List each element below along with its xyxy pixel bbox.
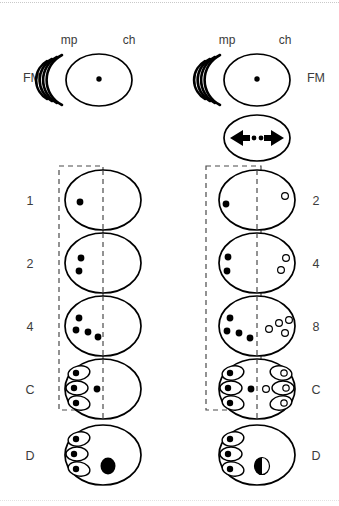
right-row-3-filled-nucleus-2	[224, 328, 231, 335]
right-row-3-open-nucleus-2	[276, 320, 283, 327]
left-row-3-nucleus-4	[95, 334, 102, 341]
right-row-2-label: 4	[313, 257, 320, 271]
lineage-diagram-svg: mp ch FM mp ch FM	[0, 0, 339, 506]
left-row-5: D	[25, 425, 141, 485]
right-row-3-open-nucleus-1	[266, 326, 273, 333]
right-row-2-open-nucleus-2	[278, 267, 285, 274]
right-row-3-open-nucleus-3	[286, 317, 293, 324]
right-row-3-open-nucleus-4	[282, 330, 289, 337]
left-ch-label: ch	[123, 33, 136, 47]
left-row-3-nucleus-2	[73, 327, 80, 334]
right-row-4-pocket-3-nucleus	[227, 400, 233, 406]
left-zygote-nucleus	[96, 76, 101, 81]
right-ch-label: ch	[279, 33, 292, 47]
right-row-3-filled-nucleus-3	[236, 330, 243, 337]
right-row-5-big-nucleus	[255, 458, 270, 475]
right-row-1: 2	[219, 170, 320, 230]
left-row-4-pocket-1-nucleus	[73, 370, 79, 376]
right-row-5-pocket-2-nucleus	[225, 451, 231, 457]
right-row-3-filled-nucleus-4	[247, 335, 254, 342]
right-row-4-open-pocket-1-nucleus	[281, 370, 287, 376]
left-row-4: C	[25, 359, 141, 419]
left-row-1-label: 1	[27, 194, 34, 208]
figure-canvas: mp ch FM mp ch FM	[0, 0, 339, 506]
division-nucleus-a	[252, 136, 257, 141]
right-row-4-free-open-nucleus	[263, 386, 270, 393]
left-row-2: 2	[27, 233, 141, 293]
left-row-3-label: 4	[27, 320, 34, 334]
left-row-5-label: D	[25, 449, 34, 463]
left-row-5-pocket-2-nucleus	[71, 451, 77, 457]
division-nucleus-b	[259, 136, 264, 141]
left-row-5-pocket-3-nucleus	[73, 466, 79, 472]
left-row-3: 4	[27, 296, 141, 356]
right-row-5: D	[219, 425, 321, 485]
right-row-3-filled-nucleus-1	[227, 315, 234, 322]
right-row-1-filled-nucleus-1	[223, 201, 230, 208]
right-row-4-open-pocket-2-nucleus	[283, 385, 289, 391]
left-row-1-nucleus-1	[77, 199, 84, 206]
right-row-4: C	[219, 359, 321, 419]
right-row-2-open-nucleus-1	[283, 255, 290, 262]
right-zygote-cell	[194, 54, 290, 106]
right-row-4-pocket-2-nucleus	[225, 385, 231, 391]
left-row-2-nucleus-2	[76, 268, 83, 275]
right-row-4-label: C	[311, 383, 320, 397]
left-row-2-nucleus-1	[78, 255, 85, 262]
left-row-3-nucleus-1	[76, 315, 83, 322]
right-zygote-nucleus	[254, 76, 259, 81]
right-row-4-pocket-1-nucleus	[227, 370, 233, 376]
right-row-3: 8	[219, 296, 320, 356]
right-row-2-filled-nucleus-1	[225, 254, 232, 261]
left-row-4-pocket-3-nucleus	[73, 400, 79, 406]
left-row-1: 1	[27, 170, 141, 230]
right-row-1-open-nucleus-1	[282, 193, 289, 200]
left-row-2-label: 2	[27, 257, 34, 271]
right-fm-label: FM	[307, 71, 325, 85]
left-row-3-nucleus-3	[85, 329, 92, 336]
left-row-4-free-nucleus	[94, 386, 101, 393]
left-row-5-big-nucleus	[101, 458, 116, 475]
right-row-5-label: D	[311, 449, 320, 463]
left-mp-label: mp	[61, 33, 78, 47]
right-row-4-free-filled-nucleus	[248, 386, 255, 393]
right-row-2: 4	[219, 233, 320, 293]
left-row-4-label: C	[25, 383, 34, 397]
left-row-4-pocket-2-nucleus	[71, 385, 77, 391]
right-row-4-open-pocket-3-nucleus	[281, 400, 287, 406]
left-row-5-pocket-1-nucleus	[73, 436, 79, 442]
right-division-cell	[224, 115, 290, 161]
right-row-5-pocket-3-nucleus	[227, 466, 233, 472]
right-row-3-label: 8	[313, 320, 320, 334]
right-row-1-label: 2	[313, 194, 320, 208]
right-row-2-filled-nucleus-2	[224, 268, 231, 275]
right-row-5-pocket-1-nucleus	[227, 436, 233, 442]
left-zygote-cell	[36, 54, 132, 106]
right-mp-label: mp	[219, 33, 236, 47]
